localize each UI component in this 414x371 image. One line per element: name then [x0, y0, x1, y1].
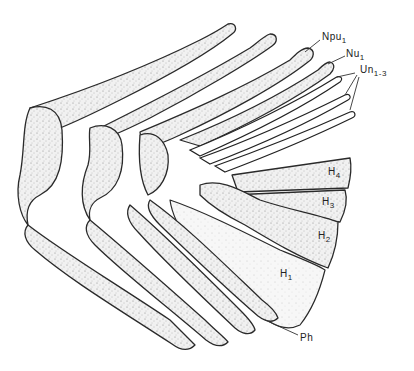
- vertebra-3: [139, 134, 168, 195]
- label-h3: H3: [322, 196, 335, 210]
- vertebra-1: [18, 107, 62, 225]
- leader-un-1: [337, 73, 355, 77]
- leader-nu1: [328, 56, 345, 64]
- label-h4: H4: [328, 166, 341, 180]
- label-nu1: Nu1: [346, 48, 365, 62]
- label-un1-3: Un1-3: [360, 64, 387, 78]
- label-npu1: Npu1: [322, 31, 347, 45]
- label-h2: H2: [318, 230, 331, 244]
- label-h1: H1: [280, 268, 293, 282]
- caudal-skeleton-figure: Npu1 Nu1 Un1-3 H4 H3 H2 H1 Ph: [0, 0, 414, 371]
- label-ph: Ph: [300, 332, 313, 346]
- leader-un-3: [350, 77, 359, 110]
- vertebra-2: [82, 126, 122, 220]
